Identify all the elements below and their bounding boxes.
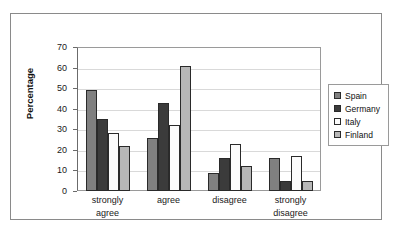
bar-group bbox=[269, 47, 313, 191]
chart-frame: Percentage 010203040506070 stronglyagree… bbox=[10, 13, 382, 220]
x-axis-category-label: disagree bbox=[199, 194, 260, 207]
legend-item[interactable]: Spain bbox=[334, 89, 384, 102]
bar-group bbox=[86, 47, 130, 191]
y-axis-tick-label: 60 bbox=[57, 63, 67, 73]
chart-legend: SpainGermanyItalyFinland bbox=[328, 84, 389, 146]
x-axis-category-labels: stronglyagreeagreedisagreestronglydisagr… bbox=[77, 194, 321, 228]
bar-series-container bbox=[77, 47, 321, 191]
x-axis-category-label: agree bbox=[138, 194, 199, 207]
bar[interactable] bbox=[86, 90, 97, 191]
legend-item[interactable]: Italy bbox=[334, 115, 384, 128]
y-axis-tick-label: 50 bbox=[57, 83, 67, 93]
legend-item[interactable]: Germany bbox=[334, 102, 384, 115]
bar[interactable] bbox=[280, 181, 291, 191]
bar-group bbox=[208, 47, 252, 191]
legend-label: Italy bbox=[345, 117, 361, 127]
bar[interactable] bbox=[302, 181, 313, 191]
bar[interactable] bbox=[230, 144, 241, 191]
bar[interactable] bbox=[97, 119, 108, 191]
y-axis-ticks: 010203040506070 bbox=[11, 47, 75, 191]
x-axis-category-line: disagree bbox=[260, 207, 321, 220]
x-axis-category-line: strongly bbox=[77, 194, 138, 207]
bar[interactable] bbox=[180, 66, 191, 191]
bar-group bbox=[147, 47, 191, 191]
legend-label: Finland bbox=[345, 130, 373, 140]
x-axis-category-label: stronglyagree bbox=[77, 194, 138, 220]
bar[interactable] bbox=[169, 125, 180, 191]
bar[interactable] bbox=[119, 146, 130, 191]
x-axis-category-line: disagree bbox=[199, 194, 260, 207]
y-axis-tick-label: 70 bbox=[57, 42, 67, 52]
y-axis-tick-mark bbox=[73, 191, 77, 192]
legend-swatch-icon bbox=[334, 105, 341, 112]
legend-label: Germany bbox=[345, 104, 380, 114]
y-axis-tick-label: 30 bbox=[57, 124, 67, 134]
bar[interactable] bbox=[241, 166, 252, 191]
x-axis-category-line: strongly bbox=[260, 194, 321, 207]
y-axis-tick-label: 0 bbox=[62, 186, 67, 196]
y-axis-tick-label: 20 bbox=[57, 145, 67, 155]
bar[interactable] bbox=[158, 103, 169, 191]
x-axis-category-label: stronglydisagree bbox=[260, 194, 321, 220]
bar[interactable] bbox=[147, 138, 158, 191]
bar[interactable] bbox=[208, 173, 219, 192]
x-axis-category-line: agree bbox=[77, 207, 138, 220]
bar[interactable] bbox=[269, 158, 280, 191]
bar[interactable] bbox=[219, 158, 230, 191]
legend-swatch-icon bbox=[334, 118, 341, 125]
bar[interactable] bbox=[291, 156, 302, 191]
y-axis-tick-label: 10 bbox=[57, 165, 67, 175]
x-axis-category-line: agree bbox=[138, 194, 199, 207]
legend-swatch-icon bbox=[334, 92, 341, 99]
legend-item[interactable]: Finland bbox=[334, 128, 384, 141]
y-axis-tick-label: 40 bbox=[57, 104, 67, 114]
legend-swatch-icon bbox=[334, 131, 341, 138]
bar[interactable] bbox=[108, 133, 119, 191]
legend-label: Spain bbox=[345, 91, 367, 101]
